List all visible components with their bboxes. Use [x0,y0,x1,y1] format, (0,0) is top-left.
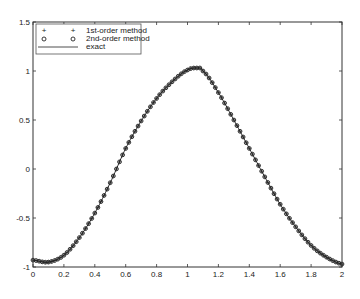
y-tick-label: 0.5 [19,116,31,125]
x-tick-label: 1.2 [213,270,225,279]
x-tick-label: 0.2 [58,270,70,279]
x-tick-label: 0.8 [151,270,163,279]
x-tick-label: 0.6 [120,270,132,279]
exact-line [33,68,342,264]
x-tick-label: 1.8 [306,270,318,279]
legend-label-exact: exact [86,42,106,51]
x-tick-label: 0.4 [89,270,101,279]
data-series [31,66,344,266]
legend-marker-plus-2: + [71,26,76,35]
legend-marker-plus-1: + [42,26,47,35]
x-tick-label: 1 [185,270,190,279]
x-tick-label: 1.4 [244,270,256,279]
x-tick-label: 0 [31,270,36,279]
y-tick-label: -1 [23,263,31,272]
y-tick-label: -0.5 [16,214,30,223]
axes-frame [33,22,342,267]
y-tick-label: 1.5 [19,18,31,27]
x-tick-label: 1.6 [275,270,287,279]
legend: + + 1st-order method 2nd-order method ex… [36,24,150,54]
chart: 00.20.40.60.811.21.41.61.82 -1-0.500.511… [0,0,360,299]
y-tick-label: 0 [26,165,31,174]
y-axis: -1-0.500.511.5 [16,18,342,272]
y-tick-label: 1 [26,67,31,76]
x-tick-label: 2 [340,270,345,279]
